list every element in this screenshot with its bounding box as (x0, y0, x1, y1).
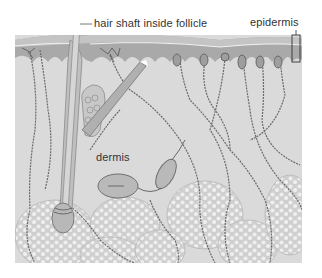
hair-shaft-label: hair shaft inside follicle (94, 17, 207, 29)
dermis-label: dermis (96, 151, 130, 163)
epidermis-label: epidermis (250, 16, 299, 28)
skin-diagram: hair shaft inside follicle epidermis der… (0, 0, 322, 278)
skin-illustration (0, 0, 322, 278)
